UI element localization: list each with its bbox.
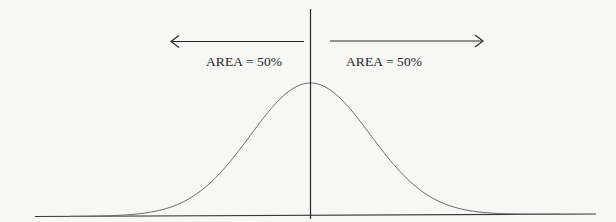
left-area-label: AREA = 50% [206,55,282,69]
arrow-right-icon [330,35,483,47]
arrow-left-icon [171,36,304,48]
right-area-label: AREA = 50% [346,55,422,69]
bell-curve [70,83,560,216]
normal-curve-diagram [0,0,616,222]
